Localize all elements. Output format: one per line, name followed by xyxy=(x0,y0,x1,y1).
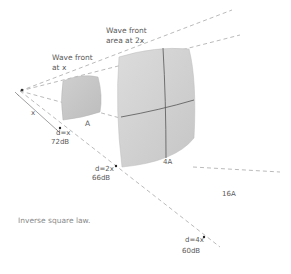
wavefront-2x-label-2: area at 2x xyxy=(106,36,145,45)
distance-x-value: d=x xyxy=(56,129,70,137)
area-4a-label: 4A xyxy=(163,158,172,166)
wavefront-large xyxy=(118,48,195,167)
measure-point-2x xyxy=(115,165,117,167)
wavefront-x-label-1: Wave front xyxy=(52,53,93,62)
wavefront-small xyxy=(62,76,102,120)
figure-caption: Inverse square law. xyxy=(18,216,90,225)
area-a-label: A xyxy=(85,119,91,128)
distance-4x-value: d=4x xyxy=(185,236,204,244)
wavefront-2x-label-1: Wave front xyxy=(106,26,147,35)
level-66db: 66dB xyxy=(92,174,110,182)
level-72db: 72dB xyxy=(51,138,69,146)
wavefront-x-label-2: at x xyxy=(52,63,67,72)
sound-source-dot xyxy=(21,89,24,92)
area-16a-label: 16A xyxy=(222,190,236,198)
ray-lower-far xyxy=(193,167,280,172)
level-60db: 60dB xyxy=(182,247,200,255)
distance-bracket xyxy=(15,92,60,133)
distance-2x-value: d=2x xyxy=(95,165,114,173)
inverse-square-diagram: x Wave front at x Wave front area at 2x … xyxy=(0,0,291,274)
distance-x-label: x xyxy=(31,109,35,117)
